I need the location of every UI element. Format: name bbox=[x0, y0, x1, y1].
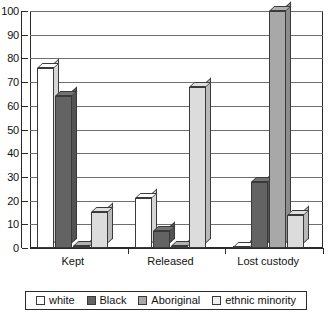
legend-label: white bbox=[49, 295, 75, 306]
y-axis-tick bbox=[22, 201, 28, 202]
y-axis-tick bbox=[22, 82, 28, 83]
y-axis-tick bbox=[22, 106, 28, 107]
bar-Black-kept bbox=[55, 11, 72, 248]
y-axis-tick bbox=[22, 153, 28, 154]
x-axis-tick bbox=[323, 248, 324, 254]
legend-swatch-icon bbox=[138, 296, 147, 305]
y-axis: 0102030405060708090100 bbox=[0, 0, 30, 248]
legend-swatch-icon bbox=[36, 296, 45, 305]
bar-side-face bbox=[206, 77, 211, 243]
legend-item-Aboriginal[interactable]: Aboriginal bbox=[138, 295, 200, 306]
bar-front-face bbox=[269, 11, 286, 248]
bar-ethnic-minority-kept bbox=[91, 11, 108, 248]
bar-front-face bbox=[153, 231, 170, 248]
bar-Black-lost-custody bbox=[251, 11, 268, 248]
y-axis-tick bbox=[22, 224, 28, 225]
bar-Aboriginal-released bbox=[171, 11, 188, 248]
bar-front-face bbox=[37, 68, 54, 248]
y-axis-label: 30 bbox=[7, 171, 19, 182]
chart-legend: whiteBlackAboriginalethnic minority bbox=[25, 291, 307, 310]
x-axis-label-kept: Kept bbox=[62, 255, 85, 268]
x-axis-tick bbox=[225, 248, 226, 254]
plot-area bbox=[30, 11, 323, 248]
y-axis-tick bbox=[22, 35, 28, 36]
y-axis-tick bbox=[22, 177, 28, 178]
bar-Aboriginal-kept bbox=[73, 11, 90, 248]
y-axis-label: 20 bbox=[7, 195, 19, 206]
y-axis-label: 80 bbox=[7, 53, 19, 64]
bar-front-face bbox=[135, 198, 152, 248]
legend-item-Black[interactable]: Black bbox=[87, 295, 127, 306]
legend-item-ethnic-minority[interactable]: ethnic minority bbox=[212, 295, 296, 306]
y-axis-tick bbox=[22, 130, 28, 131]
bar-Black-released bbox=[153, 11, 170, 248]
legend-swatch-icon bbox=[212, 296, 221, 305]
y-axis-label: 70 bbox=[7, 77, 19, 88]
bar-ethnic-minority-released bbox=[189, 11, 206, 248]
x-axis-tick bbox=[128, 248, 129, 254]
x-axis-line bbox=[30, 248, 323, 249]
y-axis-label: 40 bbox=[7, 148, 19, 159]
legend-swatch-icon bbox=[87, 296, 96, 305]
legend-label: Aboriginal bbox=[151, 295, 200, 306]
y-axis-label: 10 bbox=[7, 219, 19, 230]
legend-label: Black bbox=[100, 295, 127, 306]
x-axis: KeptReleasedLost custody bbox=[30, 248, 330, 270]
y-axis-label: 90 bbox=[7, 29, 19, 40]
y-axis-label: 0 bbox=[13, 243, 19, 254]
bar-front-face bbox=[189, 87, 206, 248]
bar-front-face bbox=[55, 96, 72, 248]
bar-front-face bbox=[287, 215, 304, 248]
y-axis-tick bbox=[22, 58, 28, 59]
bar-Aboriginal-lost-custody bbox=[269, 11, 286, 248]
bar-front-face bbox=[251, 182, 268, 248]
y-axis-tick bbox=[22, 248, 28, 249]
y-axis-label: 60 bbox=[7, 100, 19, 111]
bar-white-released bbox=[135, 11, 152, 248]
legend-label: ethnic minority bbox=[225, 295, 296, 306]
x-axis-label-released: Released bbox=[147, 255, 193, 268]
x-axis-label-lost-custody: Lost custody bbox=[237, 255, 299, 268]
bar-white-lost-custody bbox=[233, 11, 250, 248]
y-axis-label: 50 bbox=[7, 124, 19, 135]
y-axis-tick bbox=[22, 11, 28, 12]
bar-ethnic-minority-lost-custody bbox=[287, 11, 304, 248]
y-axis-label: 100 bbox=[1, 6, 19, 17]
legend-item-white[interactable]: white bbox=[36, 295, 75, 306]
bar-front-face bbox=[91, 212, 108, 248]
bar-chart: 0102030405060708090100 KeptReleasedLost … bbox=[0, 0, 331, 316]
bar-white-kept bbox=[37, 11, 54, 248]
